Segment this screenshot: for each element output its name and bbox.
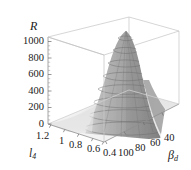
- y-axis-label-subscript: d: [174, 154, 178, 163]
- x-tick-1.2: 1.2: [36, 131, 49, 142]
- surface-plot-figure: R 1000 800 600 400 200 0 1.2 1 0.8 0.6 0…: [0, 0, 191, 170]
- y-tick-100: 100: [118, 148, 134, 159]
- x-axis-label: l4: [29, 148, 36, 161]
- x-tick-0.8: 0.8: [69, 140, 82, 151]
- x-tick-0.4: 0.4: [103, 148, 116, 159]
- z-tick-400: 400: [4, 86, 44, 97]
- z-tick-0: 0: [4, 119, 44, 130]
- z-tick-600: 600: [4, 69, 44, 80]
- y-tick-80: 80: [135, 143, 146, 154]
- y-axis-label: βd: [168, 149, 178, 163]
- surface-mesh: [48, 31, 174, 142]
- z-tick-800: 800: [4, 53, 44, 64]
- z-tick-200: 200: [4, 102, 44, 113]
- x-axis-label-subscript: 4: [32, 152, 36, 161]
- y-tick-60: 60: [150, 138, 161, 149]
- z-axis-label: R: [30, 20, 37, 32]
- y-tick-40: 40: [164, 133, 175, 144]
- x-tick-1: 1: [59, 136, 64, 147]
- z-tick-1000: 1000: [4, 36, 44, 47]
- x-tick-0.6: 0.6: [87, 144, 100, 155]
